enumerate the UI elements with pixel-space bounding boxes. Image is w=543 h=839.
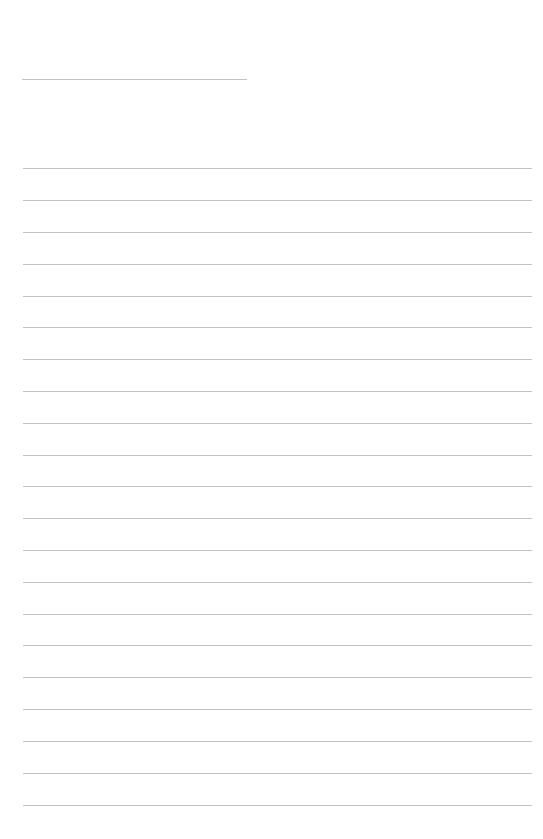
writing-line: [23, 264, 532, 265]
writing-line: [23, 359, 532, 360]
writing-line: [23, 168, 532, 169]
writing-line: [23, 773, 532, 774]
title-line: [22, 79, 247, 80]
writing-line: [23, 232, 532, 233]
writing-line: [23, 645, 532, 646]
writing-line: [23, 582, 532, 583]
writing-line: [23, 391, 532, 392]
writing-line: [23, 805, 532, 806]
writing-line: [23, 423, 532, 424]
writing-line: [23, 327, 532, 328]
writing-line: [23, 741, 532, 742]
writing-line: [23, 296, 532, 297]
writing-line: [23, 486, 532, 487]
writing-line: [23, 518, 532, 519]
writing-line: [23, 677, 532, 678]
writing-line: [23, 709, 532, 710]
writing-line: [23, 550, 532, 551]
writing-line: [23, 455, 532, 456]
writing-line: [23, 614, 532, 615]
writing-line: [23, 200, 532, 201]
lined-page: [0, 0, 543, 839]
